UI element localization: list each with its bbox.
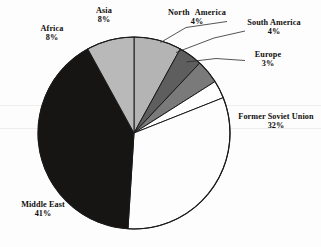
pie-label-south-america: South America 4% [231,18,317,36]
pie-label-former-soviet-union: Former Soviet Union 32% [232,112,320,130]
pie-label-europe-name: Europe [240,50,296,59]
pie-label-middle-east-value: 41% [4,209,82,218]
pie-chart-figure: Asia 8% Africa 8% North America 4% South… [0,0,321,247]
pie-label-middle-east-name: Middle East [4,200,82,209]
pie-label-asia: Asia 8% [78,6,130,24]
pie-label-south-america-value: 4% [231,27,317,36]
pie-label-africa-value: 8% [22,33,82,42]
pie-label-asia-name: Asia [78,6,130,15]
pie-label-middle-east: Middle East 41% [4,200,82,218]
pie-label-europe-value: 3% [240,59,296,68]
pie-label-europe: Europe 3% [240,50,296,68]
pie-label-africa-name: Africa [22,24,82,33]
pie-label-former-soviet-union-value: 32% [232,121,320,130]
pie-label-former-soviet-union-name: Former Soviet Union [232,112,320,121]
pie-label-north-america: North America 4% [156,8,238,26]
pie-label-asia-value: 8% [78,15,130,24]
pie-label-africa: Africa 8% [22,24,82,42]
pie-label-north-america-name: North America [156,8,238,17]
pie-label-south-america-name: South America [231,18,317,27]
pie-label-north-america-value: 4% [156,17,238,26]
